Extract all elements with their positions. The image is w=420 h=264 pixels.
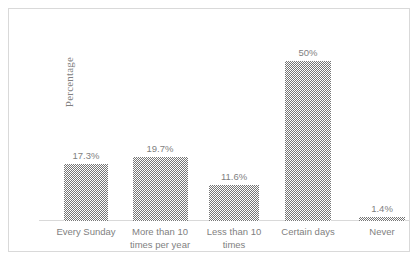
bar-rect[interactable] <box>285 61 331 221</box>
x-axis-label-never: Never <box>345 225 419 238</box>
bar-value-label: 11.6% <box>221 171 247 183</box>
bar-rect[interactable] <box>359 217 405 221</box>
bar-value-label: 50% <box>298 47 317 59</box>
chart-frame: Percentage 17.3% 19.7% 11.6% 50% <box>8 8 410 252</box>
bar-slot-1: 19.7% <box>123 25 197 221</box>
bar-rect[interactable] <box>133 157 188 221</box>
bar-slot-2: 11.6% <box>197 25 271 221</box>
x-axis-label-less-than-10-times: Less than 10 times <box>201 225 267 251</box>
bar-slot-4: 1.4% <box>345 25 419 221</box>
x-axis-label-every-sunday: Every Sunday <box>43 225 129 238</box>
bar-slot-3: 50% <box>271 25 345 221</box>
bar-value-label: 19.7% <box>147 143 174 155</box>
bar-rect[interactable] <box>209 185 259 221</box>
bar-group-never[interactable]: 1.4% <box>345 25 419 221</box>
bar-value-label: 17.3% <box>73 150 100 162</box>
bar-value-label: 1.4% <box>371 203 393 215</box>
x-axis-label-more-than-10-times-per-year: More than 10 times per year <box>125 225 195 251</box>
x-axis-labels: Every Sunday More than 10 times per year… <box>39 225 409 259</box>
bar-group-every-sunday[interactable]: 17.3% <box>49 25 123 221</box>
plot-area: 17.3% 19.7% 11.6% 50% 1.4% <box>39 25 409 221</box>
bar-slot-0: 17.3% <box>49 25 123 221</box>
bar-group-certain-days[interactable]: 50% <box>271 25 345 221</box>
bar-rect[interactable] <box>64 164 108 221</box>
bar-group-more-than-10-times-per-year[interactable]: 19.7% <box>123 25 197 221</box>
x-axis-label-certain-days: Certain days <box>271 225 345 238</box>
bar-group-less-than-10-times[interactable]: 11.6% <box>197 25 271 221</box>
